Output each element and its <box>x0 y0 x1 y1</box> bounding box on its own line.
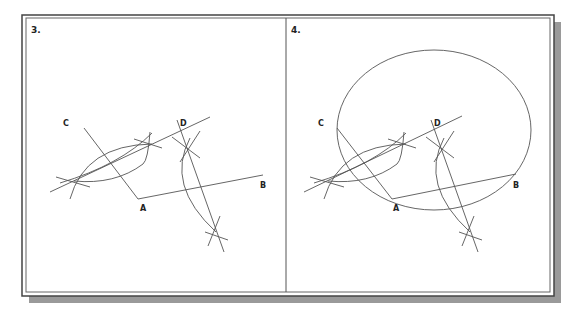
panel-3-label-d: D <box>180 119 187 128</box>
geometric-construction-figure: 3. C D A B 4. C D A B <box>0 0 576 319</box>
panel-3-label-b: B <box>260 181 266 190</box>
panel-4-label-c: C <box>318 119 324 128</box>
panel-3-label-c: C <box>63 119 69 128</box>
panel-4-number: 4. <box>291 25 301 35</box>
panel-4-label-d: D <box>434 119 441 128</box>
panel-3-label-a: A <box>140 204 147 213</box>
panel-4-label-a: A <box>393 204 400 213</box>
panel-3-number: 3. <box>31 25 41 35</box>
panel-4-label-b: B <box>513 181 519 190</box>
